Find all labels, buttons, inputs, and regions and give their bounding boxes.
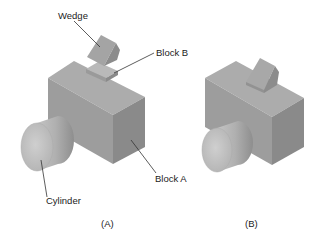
cylinder-shape [21, 116, 74, 171]
assembly-diagram: Wedge Block B Block A Cylinder (A) (B) [0, 0, 318, 244]
panel-b-caption: (B) [245, 218, 258, 229]
wedge-label: Wedge [58, 10, 88, 21]
block-b-label: Block B [156, 47, 188, 58]
wedge-shape [87, 35, 120, 66]
panel-a: Wedge Block B Block A Cylinder (A) [21, 10, 188, 229]
panel-b: (B) [202, 58, 304, 229]
block-b-leader [114, 53, 154, 73]
cylinder-label: Cylinder [46, 195, 81, 206]
wedge-leader [74, 21, 100, 47]
block-a-label: Block A [155, 173, 187, 184]
panel-a-caption: (A) [101, 218, 114, 229]
